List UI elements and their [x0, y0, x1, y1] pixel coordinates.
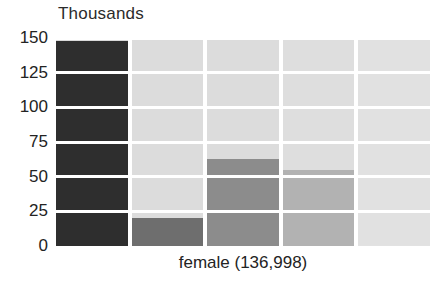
bar-column[interactable]	[207, 38, 279, 246]
bar-column[interactable]	[358, 38, 430, 246]
bar-column[interactable]	[132, 38, 204, 246]
bar[interactable]	[132, 218, 204, 246]
y-tick-label: 75	[29, 132, 48, 152]
bar-chart: Thousands 1501251007550250 female (136,9…	[0, 0, 432, 288]
bar[interactable]	[56, 41, 128, 246]
y-tick-label: 50	[29, 167, 48, 187]
x-axis-label: female (136,998)	[56, 253, 430, 273]
bar[interactable]	[207, 159, 279, 246]
bar-column[interactable]	[56, 38, 128, 246]
bar-column[interactable]	[283, 38, 355, 246]
column-background	[358, 38, 430, 246]
y-tick-label: 125	[20, 63, 48, 83]
bar[interactable]	[358, 245, 430, 246]
chart-title: Thousands	[58, 4, 144, 24]
plot-area	[56, 38, 430, 246]
y-tick-label: 0	[39, 236, 48, 256]
column-background	[132, 38, 204, 246]
y-tick-label: 150	[20, 28, 48, 48]
y-tick-label: 100	[20, 97, 48, 117]
bar[interactable]	[283, 170, 355, 246]
y-axis: 1501251007550250	[0, 30, 52, 246]
y-tick-label: 25	[29, 201, 48, 221]
